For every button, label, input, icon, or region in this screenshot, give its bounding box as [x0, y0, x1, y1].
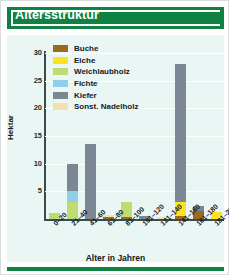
- legend-item-label: Buche: [74, 44, 98, 53]
- y-axis-tick-label: 15: [16, 132, 42, 140]
- legend-item-label: Sonst. Nadelholz: [74, 102, 138, 111]
- gridline: [45, 136, 224, 137]
- legend-item-label: Fichte: [74, 79, 98, 88]
- y-axis-ticks: 51015202530: [11, 1, 42, 228]
- legend-swatch-icon: [53, 57, 68, 64]
- bar-41-60[interactable]: [85, 144, 96, 219]
- y-axis-tick-label: 25: [16, 77, 42, 85]
- legend-swatch-icon: [53, 103, 68, 110]
- legend-item[interactable]: Fichte: [53, 78, 183, 90]
- y-axis-tick-label: 20: [16, 104, 42, 112]
- x-axis-title: Alter in Jahren: [1, 253, 229, 263]
- bar-segment-kiefer: [67, 164, 78, 192]
- legend-item-label: Weichlaubholz: [74, 67, 130, 76]
- legend-swatch-icon: [53, 68, 68, 75]
- chart-legend: BucheEicheWeichlaubholzFichteKieferSonst…: [53, 43, 183, 113]
- bar-segment-fichte: [67, 191, 78, 202]
- y-axis-tick-label: 10: [16, 160, 42, 168]
- bottom-rule: [7, 267, 224, 271]
- chart-card: Altersstruktur 51015202530 Hektar 0–2021…: [0, 0, 229, 275]
- x-axis-ticks: 0–2021–4041–6061–8081–100101–120121–1401…: [45, 222, 229, 256]
- legend-swatch-icon: [53, 92, 68, 99]
- legend-item-label: Eiche: [74, 56, 95, 65]
- legend-swatch-icon: [53, 45, 68, 52]
- y-axis-title: Hektar: [6, 100, 15, 156]
- y-axis-tick-label: 5: [16, 187, 42, 195]
- bar-segment-kiefer: [85, 144, 96, 219]
- legend-item[interactable]: Eiche: [53, 55, 183, 67]
- legend-item[interactable]: Weichlaubholz: [53, 66, 183, 78]
- legend-item[interactable]: Buche: [53, 43, 183, 55]
- legend-item[interactable]: Sonst. Nadelholz: [53, 101, 183, 113]
- legend-item-label: Kiefer: [74, 91, 97, 100]
- legend-item[interactable]: Kiefer: [53, 89, 183, 101]
- legend-swatch-icon: [53, 80, 68, 87]
- bar-21-40[interactable]: [67, 164, 78, 219]
- y-axis-tick-label: 30: [16, 49, 42, 57]
